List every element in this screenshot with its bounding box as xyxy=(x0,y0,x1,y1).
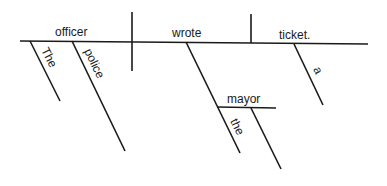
verb-word: wrote xyxy=(171,26,202,40)
sentence-diagram: officer wrote ticket. mayor The police t… xyxy=(0,0,387,186)
indirect-object-line xyxy=(217,107,276,108)
modifier-line-the-mayor xyxy=(251,108,281,169)
subject-word: officer xyxy=(55,25,87,39)
direct-object-word: ticket. xyxy=(279,28,310,42)
modifier-line-a xyxy=(294,44,323,105)
modifier-word-a: a xyxy=(310,64,326,76)
modifier-word-police: police xyxy=(81,46,107,81)
modifier-word-the: The xyxy=(38,45,60,70)
indirect-object-word: mayor xyxy=(227,92,260,106)
